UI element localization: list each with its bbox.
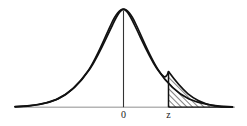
- axis-tick-label-zero: 0: [119, 110, 129, 120]
- axis-tick-label-z: z: [164, 110, 174, 120]
- distribution-plot-svg: [0, 0, 247, 126]
- normal-distribution-figure: 0 z: [0, 0, 247, 126]
